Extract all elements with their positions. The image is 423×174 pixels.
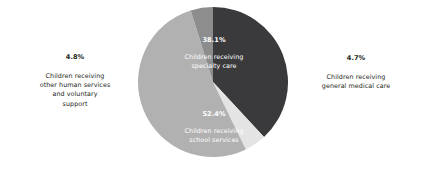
- slice-label-other-human-services: 4.8% Children receiving other human serv…: [16, 44, 134, 118]
- slice-label-general-medical-care: 4.7% Children receiving general medical …: [294, 45, 418, 101]
- pie-svg: [138, 7, 288, 157]
- slice-percent-other-human-services: 4.8%: [16, 53, 134, 63]
- slice-description-general-medical-care: Children receiving general medical care: [294, 73, 418, 91]
- slice-percent-general-medical-care: 4.7%: [294, 54, 418, 64]
- pie-chart-figure: 38.1% Children receiving specialty care …: [0, 0, 423, 174]
- slice-description-other-human-services: Children receiving other human services …: [16, 72, 134, 109]
- pie-graphic: [138, 7, 288, 157]
